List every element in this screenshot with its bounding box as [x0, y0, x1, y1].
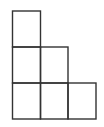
cell-square [68, 83, 96, 119]
cell-square [41, 83, 69, 119]
cell-square [13, 47, 41, 83]
cell-square [13, 83, 41, 119]
staircase-diagram [0, 0, 104, 127]
cell-square [13, 11, 41, 47]
cell-square [41, 47, 69, 83]
